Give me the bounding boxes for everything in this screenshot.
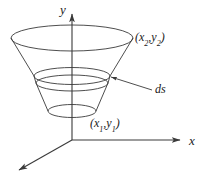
funnel-right-side <box>96 38 133 111</box>
surface-of-revolution-figure: y x (x2,y2) (x1,y1) ds <box>0 0 206 178</box>
lower-point-x-subscript: 1 <box>99 125 103 134</box>
upper-point-y-subscript: 2 <box>157 39 161 48</box>
upper-point-y-var: y <box>151 30 156 44</box>
ds-leader-line <box>111 77 152 90</box>
lower-point-close-paren: ) <box>116 116 120 130</box>
figure-canvas <box>0 0 206 178</box>
upper-point-x-subscript: 2 <box>144 39 148 48</box>
lower-point-y-subscript: 1 <box>112 125 116 134</box>
upper-point-close-paren: ) <box>161 30 165 44</box>
arc-element-label: ds <box>155 83 166 95</box>
upper-point-label: (x2,y2) <box>135 31 165 46</box>
x-axis-label: x <box>189 134 195 147</box>
lower-point-y-var: y <box>106 116 111 130</box>
lower-point-label: (x1,y1) <box>90 117 120 132</box>
funnel-left-side <box>11 38 48 111</box>
z-axis-line <box>19 140 72 170</box>
y-axis-label: y <box>60 3 66 16</box>
